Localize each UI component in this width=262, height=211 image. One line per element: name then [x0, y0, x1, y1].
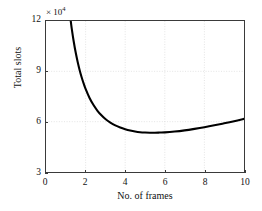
x-tick-mark	[125, 170, 126, 173]
data-curve	[46, 21, 244, 172]
x-tick-mark	[45, 170, 46, 173]
x-tick-label: 10	[240, 178, 250, 188]
y-axis-multiplier-text: × 10	[46, 7, 62, 17]
y-tick-mark	[45, 173, 48, 174]
plot-area	[45, 20, 245, 173]
y-tick-mark	[45, 122, 48, 123]
x-tick-mark	[245, 170, 246, 173]
y-tick-label: 9	[18, 66, 41, 76]
y-tick-mark	[45, 20, 48, 21]
y-tick-label: 3	[18, 168, 41, 178]
x-axis-label: No. of frames	[45, 190, 245, 201]
y-tick-label: 12	[18, 15, 41, 25]
x-tick-mark	[165, 170, 166, 173]
y-tick-label: 6	[18, 117, 41, 127]
y-axis-multiplier-exponent: 4	[62, 5, 65, 12]
x-tick-label: 0	[43, 178, 48, 188]
y-tick-mark	[45, 71, 48, 72]
x-tick-label: 2	[83, 178, 88, 188]
x-tick-label: 6	[163, 178, 168, 188]
x-tick-mark	[85, 170, 86, 173]
x-tick-label: 8	[203, 178, 208, 188]
x-tick-mark	[205, 170, 206, 173]
chart-figure: × 104 Total slots No. of frames 36912024…	[0, 0, 262, 211]
x-tick-label: 4	[123, 178, 128, 188]
y-axis-multiplier: × 104	[46, 6, 66, 17]
